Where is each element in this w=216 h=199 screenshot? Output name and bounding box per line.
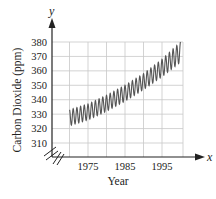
y-axis-title: Carbon Dioxide (ppm) xyxy=(11,47,24,152)
co2-chart: 310320330340350360370380 197519851995 y … xyxy=(0,0,216,199)
y-axis-variable: y xyxy=(48,4,55,18)
y-tick-label: 350 xyxy=(31,80,47,91)
x-axis-arrow-icon xyxy=(195,154,205,161)
y-axis-arrow-icon xyxy=(49,18,56,28)
y-tick-label: 360 xyxy=(31,65,47,76)
y-tick-label: 320 xyxy=(31,123,47,134)
y-tick-label: 310 xyxy=(31,138,47,149)
y-tick-label: 370 xyxy=(31,51,47,62)
x-tick-label: 1975 xyxy=(78,161,99,172)
x-tick-label: 1985 xyxy=(115,161,136,172)
y-tick-label: 340 xyxy=(31,94,47,105)
x-tick-labels: 197519851995 xyxy=(78,161,173,172)
y-tick-labels: 310320330340350360370380 xyxy=(31,37,47,149)
y-tick-label: 380 xyxy=(31,37,47,48)
grid-lines xyxy=(52,42,183,157)
y-tick-label: 330 xyxy=(31,109,47,120)
x-axis-title: Year xyxy=(107,175,128,187)
x-tick-label: 1995 xyxy=(152,161,173,172)
x-axis-variable: x xyxy=(206,150,213,164)
axis-break-icon xyxy=(44,147,64,165)
